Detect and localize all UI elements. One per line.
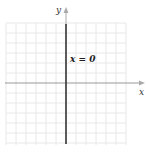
equation-label: x = 0 [69,54,96,64]
coordinate-plane: y x x = 0 [0,0,147,152]
y-axis-arrow-icon [64,7,69,13]
x-axis-label: x [139,87,144,97]
x-axis-arrow-icon [139,81,145,86]
y-axis [64,7,69,25]
y-axis-label: y [55,5,62,15]
